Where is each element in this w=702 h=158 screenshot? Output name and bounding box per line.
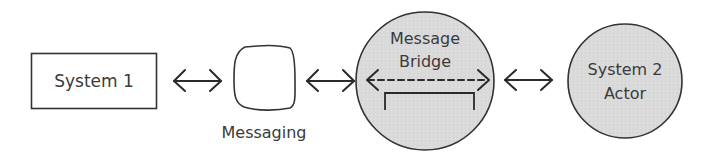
system2-label-line1: System 2 (588, 60, 663, 79)
arrow-messaging-bridge (307, 70, 354, 91)
message-bridge-node: Message Bridge (356, 12, 494, 150)
messaging-channel-shape (234, 46, 295, 111)
bridge-label-line1: Message (390, 29, 460, 48)
arrow-system1-messaging (174, 70, 221, 91)
system2-label-line2: Actor (604, 84, 647, 103)
system2-circle (568, 24, 682, 138)
messaging-label: Messaging (221, 123, 306, 142)
system1-label: System 1 (54, 71, 134, 91)
arrow-bridge-system2 (505, 70, 552, 90)
system1-node: System 1 (32, 54, 157, 109)
system2-actor-node: System 2 Actor (568, 24, 682, 138)
messaging-node: Messaging (221, 46, 306, 142)
diagram-canvas: System 1 Messaging Message Bridge (0, 0, 702, 158)
bridge-label-line2: Bridge (399, 52, 451, 71)
